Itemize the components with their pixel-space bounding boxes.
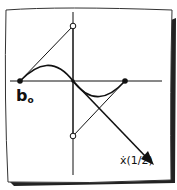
label-tangent: ẋ(1/2) (120, 154, 153, 167)
point-b1 (70, 23, 76, 29)
origin-point (71, 79, 75, 83)
point-b2 (70, 133, 76, 139)
point-b3 (122, 78, 128, 84)
point-b0 (17, 78, 23, 84)
label-b0: bo (16, 86, 34, 105)
